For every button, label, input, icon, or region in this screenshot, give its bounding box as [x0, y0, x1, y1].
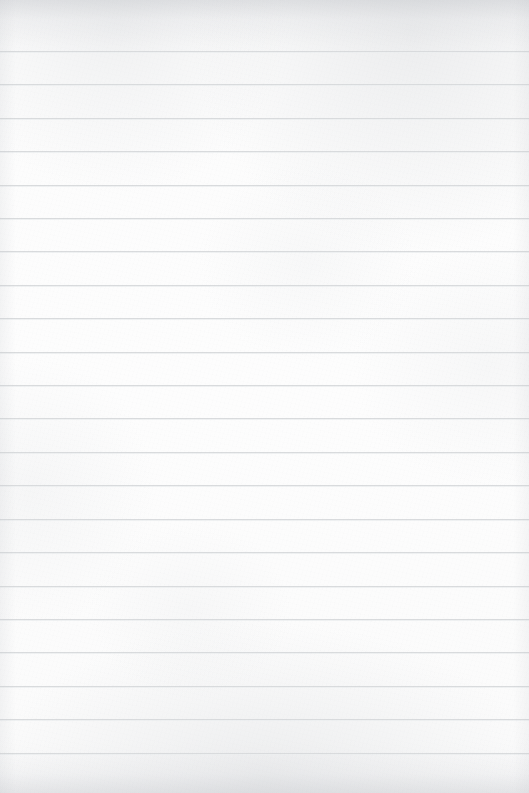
writing-area[interactable] [0, 0, 529, 793]
notebook-page [0, 0, 529, 793]
